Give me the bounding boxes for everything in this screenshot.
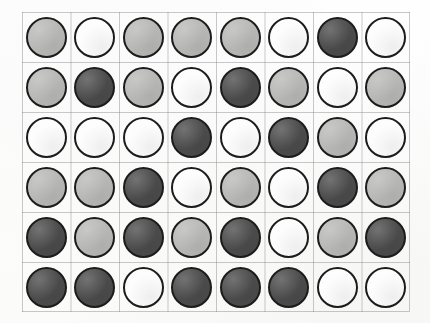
token-dark-circle-icon[interactable] [123,167,164,208]
token-dark-circle-icon[interactable] [317,167,358,208]
token-white-circle-icon[interactable] [365,17,406,58]
grid-cell[interactable] [119,62,168,112]
token-white-circle-icon[interactable] [268,17,309,58]
grid-cell[interactable] [22,162,71,212]
token-dark-circle-icon[interactable] [171,267,212,308]
token-grid-board [0,0,430,323]
grid-cell[interactable] [119,112,168,162]
grid-cell[interactable] [265,12,314,62]
token-gray-circle-icon[interactable] [123,67,164,108]
grid-cell[interactable] [313,162,362,212]
grid-cell[interactable] [22,12,71,62]
grid-cell[interactable] [119,262,168,312]
grid-cell[interactable] [216,62,265,112]
token-white-circle-icon[interactable] [317,67,358,108]
grid-cell[interactable] [119,12,168,62]
grid-cell[interactable] [265,262,314,312]
token-dark-circle-icon[interactable] [268,267,309,308]
token-gray-circle-icon[interactable] [365,167,406,208]
grid-cell[interactable] [265,62,314,112]
grid-cell[interactable] [216,162,265,212]
token-gray-circle-icon[interactable] [220,17,261,58]
grid-cell[interactable] [265,162,314,212]
grid-cell[interactable] [216,262,265,312]
token-gray-circle-icon[interactable] [26,17,67,58]
token-gray-circle-icon[interactable] [171,217,212,258]
token-white-circle-icon[interactable] [171,167,212,208]
grid-cell[interactable] [71,212,120,262]
grid-cell[interactable] [216,112,265,162]
token-white-circle-icon[interactable] [171,67,212,108]
grid-cells [22,12,410,312]
grid-cell[interactable] [362,112,411,162]
grid-cell[interactable] [168,62,217,112]
grid-cell[interactable] [22,112,71,162]
grid-cell[interactable] [362,162,411,212]
token-gray-circle-icon[interactable] [26,67,67,108]
token-gray-circle-icon[interactable] [220,167,261,208]
grid-cell[interactable] [168,212,217,262]
token-dark-circle-icon[interactable] [74,267,115,308]
grid-cell[interactable] [313,62,362,112]
grid-cell[interactable] [168,162,217,212]
grid-cell[interactable] [119,162,168,212]
grid-cell[interactable] [22,212,71,262]
grid-cell[interactable] [168,262,217,312]
grid-cell[interactable] [362,262,411,312]
token-white-circle-icon[interactable] [74,17,115,58]
grid-cell[interactable] [71,112,120,162]
token-dark-circle-icon[interactable] [317,17,358,58]
token-dark-circle-icon[interactable] [268,117,309,158]
token-dark-circle-icon[interactable] [171,117,212,158]
grid-cell[interactable] [216,12,265,62]
token-white-circle-icon[interactable] [317,267,358,308]
grid-cell[interactable] [362,212,411,262]
token-white-circle-icon[interactable] [220,117,261,158]
token-dark-circle-icon[interactable] [220,267,261,308]
token-white-circle-icon[interactable] [268,167,309,208]
token-dark-circle-icon[interactable] [365,217,406,258]
grid-cell[interactable] [71,162,120,212]
token-gray-circle-icon[interactable] [123,17,164,58]
token-gray-circle-icon[interactable] [26,167,67,208]
token-white-circle-icon[interactable] [268,217,309,258]
grid-cell[interactable] [168,112,217,162]
grid-cell[interactable] [71,12,120,62]
grid-cell[interactable] [265,112,314,162]
token-white-circle-icon[interactable] [365,117,406,158]
token-gray-circle-icon[interactable] [365,67,406,108]
token-gray-circle-icon[interactable] [268,67,309,108]
token-dark-circle-icon[interactable] [26,267,67,308]
token-dark-circle-icon[interactable] [220,67,261,108]
grid-cell[interactable] [265,212,314,262]
token-white-circle-icon[interactable] [26,117,67,158]
grid-cell[interactable] [313,212,362,262]
token-white-circle-icon[interactable] [123,117,164,158]
grid-cell[interactable] [22,262,71,312]
grid-cell[interactable] [313,262,362,312]
token-dark-circle-icon[interactable] [220,217,261,258]
grid-cell[interactable] [313,12,362,62]
grid-area [22,12,410,312]
token-white-circle-icon[interactable] [123,267,164,308]
token-white-circle-icon[interactable] [365,267,406,308]
grid-cell[interactable] [362,12,411,62]
token-gray-circle-icon[interactable] [74,167,115,208]
token-gray-circle-icon[interactable] [317,217,358,258]
grid-cell[interactable] [22,62,71,112]
grid-cell[interactable] [71,62,120,112]
token-gray-circle-icon[interactable] [171,17,212,58]
token-gray-circle-icon[interactable] [74,217,115,258]
grid-cell[interactable] [71,262,120,312]
grid-cell[interactable] [216,212,265,262]
token-gray-circle-icon[interactable] [317,117,358,158]
grid-cell[interactable] [362,62,411,112]
token-dark-circle-icon[interactable] [123,217,164,258]
grid-cell[interactable] [168,12,217,62]
grid-cell[interactable] [313,112,362,162]
token-white-circle-icon[interactable] [74,117,115,158]
token-dark-circle-icon[interactable] [26,217,67,258]
token-dark-circle-icon[interactable] [74,67,115,108]
grid-cell[interactable] [119,212,168,262]
